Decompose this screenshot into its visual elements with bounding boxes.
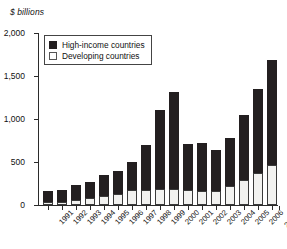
- bar-segment-high-income: [197, 143, 206, 191]
- bar-group: [183, 144, 192, 205]
- bar-group: [71, 185, 80, 205]
- y-tick-label: 500: [11, 157, 25, 167]
- bar-segment-developing: [197, 191, 206, 205]
- bar-segment-high-income: [155, 110, 164, 189]
- x-axis-labels: 1991199219931994199519961997199819992000…: [38, 208, 278, 248]
- bar-segment-developing: [57, 202, 66, 205]
- bar-group: [225, 138, 234, 205]
- bar-segment-high-income: [99, 175, 108, 196]
- bar-segment-high-income: [225, 138, 234, 186]
- bar-segment-high-income: [211, 150, 220, 190]
- legend-label-developing: Developing countries: [62, 51, 139, 61]
- chart-figure: $ billions 05001,0001,5002,000 199119921…: [0, 0, 287, 249]
- bar-group: [127, 162, 136, 205]
- bar-segment-developing: [155, 189, 164, 205]
- bar-group: [155, 110, 164, 205]
- bar-segment-developing: [253, 173, 262, 205]
- bar-group: [99, 175, 108, 205]
- bar-segment-developing: [127, 190, 136, 205]
- bar-segment-developing: [113, 194, 122, 205]
- bar-segment-developing: [43, 202, 52, 205]
- bar-segment-developing: [85, 198, 94, 205]
- bar-group: [239, 115, 248, 205]
- bar-segment-developing: [99, 196, 108, 205]
- bar-segment-high-income: [85, 182, 94, 198]
- bar-group: [43, 191, 52, 205]
- bar-segment-high-income: [43, 191, 52, 202]
- bar-segment-developing: [71, 200, 80, 205]
- bar-segment-high-income: [267, 60, 276, 164]
- bar-segment-developing: [267, 165, 276, 205]
- legend-label-high-income: High-income countries: [62, 40, 145, 50]
- y-tick-0: [34, 205, 39, 206]
- black-square-icon: [49, 41, 57, 49]
- bar-segment-high-income: [113, 171, 122, 194]
- bar-segment-developing: [169, 189, 178, 205]
- y-tick-label: 1,500: [4, 71, 25, 81]
- bar-group: [141, 145, 150, 205]
- bar-segment-developing: [225, 186, 234, 205]
- bar-segment-developing: [141, 190, 150, 205]
- legend-item-developing: Developing countries: [49, 50, 145, 61]
- legend-item-high-income: High-income countries: [49, 39, 145, 50]
- bar-group: [113, 171, 122, 205]
- bar-segment-high-income: [71, 185, 80, 200]
- bar-group: [267, 60, 276, 205]
- bar-group: [197, 143, 206, 205]
- y-tick-label: 0: [20, 200, 25, 210]
- bar-segment-high-income: [253, 89, 262, 173]
- bar-group: [253, 89, 262, 205]
- x-axis-line: [38, 205, 278, 206]
- bar-segment-developing: [211, 191, 220, 205]
- chart-legend: High-income countries Developing countri…: [44, 35, 152, 65]
- bar-segment-high-income: [57, 190, 66, 202]
- bar-segment-high-income: [169, 92, 178, 188]
- bar-group: [85, 182, 94, 205]
- bar-segment-developing: [183, 190, 192, 205]
- bar-group: [169, 92, 178, 205]
- white-square-icon: [49, 52, 57, 60]
- bar-segment-high-income: [239, 115, 248, 180]
- bar-segment-developing: [239, 180, 248, 205]
- bar-group: [57, 190, 66, 205]
- bar-segment-high-income: [127, 162, 136, 190]
- bar-segment-high-income: [141, 145, 150, 190]
- y-axis-unit-label: $ billions: [10, 7, 44, 17]
- y-tick-label: 1,000: [4, 114, 25, 124]
- bar-segment-high-income: [183, 144, 192, 191]
- y-tick-label: 2,000: [4, 28, 25, 38]
- bar-group: [211, 150, 220, 205]
